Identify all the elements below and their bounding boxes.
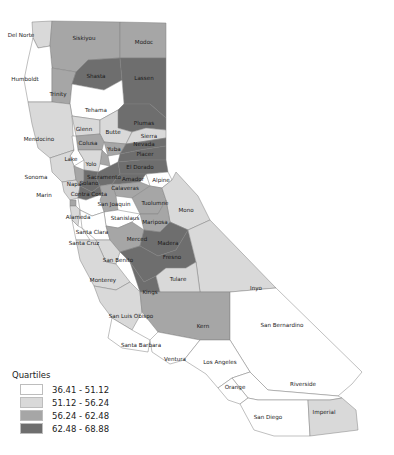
county-label-merced: Merced xyxy=(127,236,148,242)
county-label-lake: Lake xyxy=(64,156,78,162)
county-label-calaveras: Calaveras xyxy=(111,185,139,191)
county-label-yolo: Yolo xyxy=(84,161,97,167)
legend-item-q2: 51.12 - 56.24 xyxy=(8,396,109,409)
county-label-siskiyou: Siskiyou xyxy=(72,35,96,42)
county-label-santa-cruz: Santa Cruz xyxy=(69,240,100,246)
county-label-madera: Madera xyxy=(158,240,179,246)
county-label-orange: Orange xyxy=(225,384,246,391)
county-label-kings: Kings xyxy=(142,289,157,296)
county-label-tulare: Tulare xyxy=(169,276,187,282)
county-inyo xyxy=(188,220,276,292)
county-san-francisco xyxy=(70,200,76,206)
county-label-solano: Solano xyxy=(80,180,100,186)
county-label-placer: Placer xyxy=(136,151,154,157)
county-label-trinity: Trinity xyxy=(48,91,67,98)
county-label-humboldt: Humboldt xyxy=(11,76,39,82)
county-label-san-diego: San Diego xyxy=(254,414,283,421)
county-label-stanislaus: Stanislaus xyxy=(111,215,140,221)
county-label-del-norte: Del Norte xyxy=(8,32,35,38)
legend-label: 51.12 - 56.24 xyxy=(52,398,109,408)
county-label-imperial: Imperial xyxy=(313,409,336,416)
county-label-shasta: Shasta xyxy=(86,73,105,79)
county-label-alpine: Alpine xyxy=(152,177,170,184)
county-label-san-luis-obispo: San Luis Obispo xyxy=(109,313,154,320)
county-label-santa-clara: Santa Clara xyxy=(76,229,109,235)
county-label-contra-costa: Contra Costa xyxy=(71,191,107,197)
county-label-sierra: Sierra xyxy=(141,133,157,139)
county-kern xyxy=(140,292,230,340)
county-label-ventura: Ventura xyxy=(164,356,186,362)
county-mendocino xyxy=(28,102,74,158)
legend-item-q1: 36.41 - 51.12 xyxy=(8,383,109,396)
county-label-tuolumne: Tuolumne xyxy=(140,200,169,206)
legend: Quartiles 36.41 - 51.12 51.12 - 56.24 56… xyxy=(8,370,109,435)
county-label-mendocino: Mendocino xyxy=(24,136,55,142)
county-label-butte: Butte xyxy=(105,129,121,135)
county-label-santa-barbara: Santa Barbara xyxy=(121,342,161,348)
county-label-lassen: Lassen xyxy=(134,75,154,81)
county-humboldt xyxy=(24,38,52,102)
county-label-plumas: Plumas xyxy=(134,120,154,126)
county-label-kern: Kern xyxy=(197,323,210,329)
legend-swatch xyxy=(20,423,43,434)
county-label-los-angeles: Los Angeles xyxy=(203,359,236,366)
legend-swatch xyxy=(20,384,43,395)
county-label-amador: Amador xyxy=(122,176,145,182)
county-label-glenn: Glenn xyxy=(76,126,93,132)
county-label-nevada: Nevada xyxy=(133,141,154,147)
county-label-modoc: Modoc xyxy=(135,39,153,45)
legend-item-q4: 62.48 - 68.88 xyxy=(8,422,109,435)
legend-label: 62.48 - 68.88 xyxy=(52,424,109,434)
county-label-san-joaquin: San Joaquin xyxy=(98,201,131,208)
county-label-riverside: Riverside xyxy=(290,381,317,387)
county-label-san-bernardino: San Bernardino xyxy=(260,322,304,328)
legend-swatch xyxy=(20,410,43,421)
county-label-marin: Marin xyxy=(36,192,52,198)
legend-label: 56.24 - 62.48 xyxy=(52,411,109,421)
county-label-el-dorado: El Dorado xyxy=(126,164,154,170)
legend-label: 36.41 - 51.12 xyxy=(52,385,109,395)
county-label-colusa: Colusa xyxy=(79,140,98,146)
county-label-inyo: Inyo xyxy=(250,285,263,292)
county-label-mono: Mono xyxy=(178,207,194,213)
county-label-sonoma: Sonoma xyxy=(25,174,48,180)
county-label-san-benito: San Benito xyxy=(103,257,134,263)
county-label-tehama: Tehama xyxy=(84,107,107,113)
county-label-alameda: Alameda xyxy=(66,214,91,220)
county-imperial xyxy=(308,398,358,436)
county-label-fresno: Fresno xyxy=(163,254,182,260)
county-label-mariposa: Mariposa xyxy=(142,219,167,226)
legend-item-q3: 56.24 - 62.48 xyxy=(8,409,109,422)
legend-swatch xyxy=(20,397,43,408)
county-label-monterey: Monterey xyxy=(90,277,117,284)
county-label-yuba: Yuba xyxy=(106,146,120,152)
legend-title: Quartiles xyxy=(12,370,109,380)
